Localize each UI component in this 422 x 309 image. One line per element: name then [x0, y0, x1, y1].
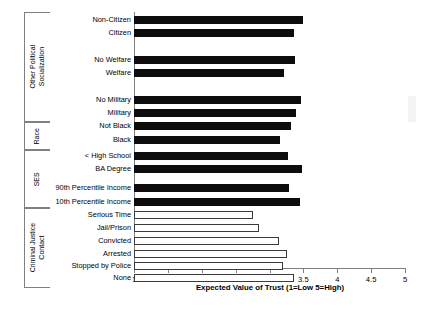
bar — [134, 16, 303, 24]
bar — [134, 250, 287, 258]
bar — [134, 56, 295, 64]
category-label: 90th Percentile Income — [50, 183, 131, 192]
category-label: 10th Percentile Income — [50, 197, 131, 206]
group-band: Race — [24, 122, 50, 150]
x-axis-title: Expected Value of Trust (1=Low 5=High) — [134, 283, 406, 292]
category-label: Military — [50, 108, 131, 117]
category-label: Serious Time — [50, 210, 131, 219]
bar — [134, 184, 289, 192]
group-band: Criminal JusticeContact — [24, 208, 50, 288]
category-label-column: Non-CitizenCitizenNo WelfareWelfareNo Mi… — [50, 12, 133, 268]
category-label: Jail/Prison — [50, 223, 131, 232]
bar — [134, 69, 284, 77]
category-label: Black — [50, 135, 131, 144]
bar — [134, 152, 288, 160]
bar-chart: Other PoliticalSocializationRaceSESCrimi… — [0, 0, 422, 309]
category-label: Citizen — [50, 28, 131, 37]
category-label: No Military — [50, 95, 131, 104]
x-axis-tick — [303, 269, 304, 273]
group-band-label: SES — [33, 172, 42, 186]
category-label: Stopped by Police — [50, 261, 131, 270]
group-band-label: Criminal JusticeContact — [29, 223, 46, 272]
x-axis-tick — [405, 269, 406, 273]
bar — [134, 262, 283, 270]
x-axis-tick — [337, 269, 338, 273]
bar — [134, 165, 302, 173]
bar — [134, 198, 300, 206]
scan-artifact — [408, 96, 416, 122]
category-label: < High School — [50, 151, 131, 160]
category-label: Welfare — [50, 68, 131, 77]
category-label: Non-Citizen — [50, 15, 131, 24]
category-label: Arrested — [50, 249, 131, 258]
bar — [134, 237, 279, 245]
bar — [134, 122, 291, 130]
bar — [134, 224, 259, 232]
bar — [134, 274, 294, 282]
bar — [134, 109, 296, 117]
plot-area: 11.522.533.544.55 — [134, 12, 405, 268]
x-axis-tick — [371, 269, 372, 273]
bar — [134, 211, 253, 219]
category-label: BA Degree — [50, 164, 131, 173]
category-label: No Welfare — [50, 55, 131, 64]
group-band-label: Race — [33, 128, 42, 144]
category-label: Not Black — [50, 121, 131, 130]
group-band: Other PoliticalSocialization — [24, 12, 50, 122]
bar — [134, 136, 280, 144]
group-band: SES — [24, 150, 50, 208]
category-label: Convicted — [50, 236, 131, 245]
bar — [134, 29, 294, 37]
group-band-label: Other PoliticalSocialization — [29, 45, 46, 89]
group-axis-column: Other PoliticalSocializationRaceSESCrimi… — [24, 12, 50, 268]
bar — [134, 96, 301, 104]
